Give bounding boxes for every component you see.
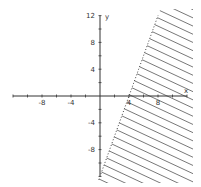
y-tick-label: 12 xyxy=(86,12,95,20)
inequality-graph: -8-4481284-4-8xy xyxy=(0,0,201,187)
hatch-line xyxy=(60,161,201,187)
hatch-line xyxy=(60,0,201,1)
hatch-line xyxy=(60,0,201,26)
hatch-line xyxy=(60,0,201,18)
x-tick-label: -4 xyxy=(68,99,76,107)
hatch-line xyxy=(60,185,201,187)
x-tick-label: 4 xyxy=(127,99,132,107)
hatch-line xyxy=(60,136,201,187)
hatch-line xyxy=(60,0,201,67)
hatch-line xyxy=(60,128,201,187)
x-axis-label: x xyxy=(184,87,188,95)
y-tick-label: -8 xyxy=(88,146,95,154)
hatch-line xyxy=(60,0,201,42)
hatch-line xyxy=(60,5,201,75)
hatch-line xyxy=(60,30,201,100)
axes xyxy=(13,16,187,177)
hatch-line xyxy=(60,0,201,59)
hatch-line xyxy=(60,38,201,108)
boundary-line-group xyxy=(99,16,158,180)
hatch-line xyxy=(60,0,201,50)
hatch-line xyxy=(60,79,201,149)
y-tick-label: -4 xyxy=(88,119,96,127)
hatch-line xyxy=(60,0,201,9)
tick-labels: -8-4481284-4-8xy xyxy=(39,12,189,154)
hatch-line xyxy=(60,112,201,182)
hatch-line xyxy=(60,87,201,157)
hatch-line xyxy=(60,13,201,83)
hatch-line xyxy=(60,153,201,187)
y-tick-label: 4 xyxy=(91,66,96,74)
x-tick-label: 8 xyxy=(156,99,160,107)
boundary-line xyxy=(99,16,158,180)
hatch-line xyxy=(60,177,201,187)
hatch-region xyxy=(60,0,201,187)
hatch-line xyxy=(60,169,201,187)
x-tick-label: -8 xyxy=(39,99,46,107)
hatch-line xyxy=(60,103,201,173)
hatch-line xyxy=(60,54,201,124)
hatch-line xyxy=(60,0,201,34)
y-tick-label: 8 xyxy=(91,39,95,47)
y-axis-label: y xyxy=(105,13,109,21)
hatch-line xyxy=(60,62,201,132)
hatch-line xyxy=(60,21,201,91)
